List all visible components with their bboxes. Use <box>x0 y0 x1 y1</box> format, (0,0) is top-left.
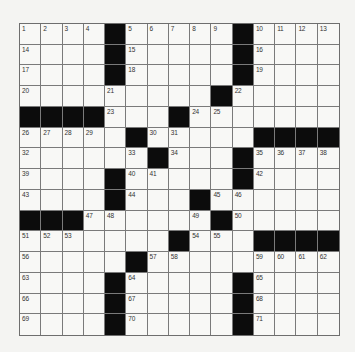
grid-cell[interactable] <box>126 86 147 107</box>
grid-cell[interactable]: 43 <box>20 190 41 211</box>
grid-cell[interactable]: 42 <box>254 169 275 190</box>
grid-cell[interactable]: 63 <box>20 273 41 294</box>
grid-cell[interactable]: 53 <box>63 231 84 252</box>
grid-cell[interactable] <box>211 252 232 273</box>
grid-cell[interactable]: 8 <box>190 24 211 45</box>
grid-cell[interactable] <box>105 231 126 252</box>
grid-cell[interactable] <box>296 65 317 86</box>
grid-cell[interactable] <box>275 273 296 294</box>
grid-cell[interactable] <box>84 190 105 211</box>
grid-cell[interactable] <box>190 86 211 107</box>
grid-cell[interactable] <box>233 252 254 273</box>
grid-cell[interactable] <box>275 190 296 211</box>
grid-cell[interactable]: 38 <box>318 148 339 169</box>
grid-cell[interactable] <box>211 65 232 86</box>
grid-cell[interactable]: 33 <box>126 148 147 169</box>
grid-cell[interactable] <box>84 273 105 294</box>
grid-cell[interactable] <box>84 65 105 86</box>
grid-cell[interactable] <box>41 148 62 169</box>
grid-cell[interactable] <box>318 45 339 66</box>
grid-cell[interactable]: 70 <box>126 314 147 335</box>
grid-cell[interactable] <box>148 294 169 315</box>
grid-cell[interactable] <box>254 190 275 211</box>
grid-cell[interactable] <box>148 45 169 66</box>
grid-cell[interactable]: 36 <box>275 148 296 169</box>
grid-cell[interactable]: 66 <box>20 294 41 315</box>
grid-cell[interactable]: 48 <box>105 211 126 232</box>
grid-cell[interactable] <box>296 45 317 66</box>
grid-cell[interactable]: 46 <box>233 190 254 211</box>
grid-cell[interactable] <box>148 314 169 335</box>
grid-cell[interactable] <box>63 190 84 211</box>
grid-cell[interactable]: 34 <box>169 148 190 169</box>
grid-cell[interactable] <box>211 294 232 315</box>
grid-cell[interactable]: 56 <box>20 252 41 273</box>
grid-cell[interactable]: 55 <box>211 231 232 252</box>
grid-cell[interactable] <box>63 169 84 190</box>
grid-cell[interactable] <box>105 128 126 149</box>
grid-cell[interactable]: 31 <box>169 128 190 149</box>
grid-cell[interactable] <box>318 273 339 294</box>
grid-cell[interactable] <box>63 294 84 315</box>
grid-cell[interactable]: 15 <box>126 45 147 66</box>
grid-cell[interactable] <box>126 211 147 232</box>
grid-cell[interactable] <box>233 128 254 149</box>
grid-cell[interactable] <box>169 65 190 86</box>
grid-cell[interactable] <box>41 294 62 315</box>
grid-cell[interactable]: 51 <box>20 231 41 252</box>
grid-cell[interactable]: 3 <box>63 24 84 45</box>
grid-cell[interactable] <box>190 314 211 335</box>
grid-cell[interactable]: 1 <box>20 24 41 45</box>
grid-cell[interactable] <box>296 107 317 128</box>
grid-cell[interactable]: 45 <box>211 190 232 211</box>
grid-cell[interactable] <box>275 294 296 315</box>
grid-cell[interactable] <box>63 252 84 273</box>
grid-cell[interactable]: 19 <box>254 65 275 86</box>
grid-cell[interactable] <box>63 45 84 66</box>
grid-cell[interactable] <box>63 86 84 107</box>
grid-cell[interactable] <box>41 65 62 86</box>
grid-cell[interactable] <box>190 273 211 294</box>
grid-cell[interactable] <box>84 45 105 66</box>
grid-cell[interactable] <box>296 169 317 190</box>
grid-cell[interactable]: 29 <box>84 128 105 149</box>
grid-cell[interactable] <box>148 107 169 128</box>
grid-cell[interactable]: 59 <box>254 252 275 273</box>
grid-cell[interactable]: 12 <box>296 24 317 45</box>
grid-cell[interactable] <box>211 169 232 190</box>
grid-cell[interactable] <box>211 128 232 149</box>
grid-cell[interactable] <box>254 211 275 232</box>
grid-cell[interactable] <box>296 211 317 232</box>
grid-cell[interactable] <box>169 211 190 232</box>
grid-cell[interactable]: 40 <box>126 169 147 190</box>
grid-cell[interactable] <box>41 169 62 190</box>
grid-cell[interactable] <box>169 314 190 335</box>
grid-cell[interactable] <box>190 294 211 315</box>
grid-cell[interactable] <box>169 169 190 190</box>
grid-cell[interactable] <box>211 273 232 294</box>
grid-cell[interactable] <box>84 314 105 335</box>
grid-cell[interactable]: 23 <box>105 107 126 128</box>
grid-cell[interactable]: 50 <box>233 211 254 232</box>
grid-cell[interactable]: 9 <box>211 24 232 45</box>
grid-cell[interactable] <box>105 252 126 273</box>
grid-cell[interactable]: 25 <box>211 107 232 128</box>
grid-cell[interactable]: 60 <box>275 252 296 273</box>
grid-cell[interactable] <box>84 169 105 190</box>
grid-cell[interactable] <box>169 45 190 66</box>
grid-cell[interactable]: 13 <box>318 24 339 45</box>
grid-cell[interactable] <box>318 65 339 86</box>
grid-cell[interactable] <box>211 148 232 169</box>
grid-cell[interactable] <box>84 148 105 169</box>
grid-cell[interactable]: 22 <box>233 86 254 107</box>
grid-cell[interactable]: 44 <box>126 190 147 211</box>
grid-cell[interactable] <box>254 86 275 107</box>
grid-cell[interactable] <box>63 65 84 86</box>
grid-cell[interactable] <box>275 45 296 66</box>
grid-cell[interactable] <box>275 211 296 232</box>
grid-cell[interactable] <box>190 65 211 86</box>
grid-cell[interactable]: 4 <box>84 24 105 45</box>
grid-cell[interactable]: 71 <box>254 314 275 335</box>
grid-cell[interactable]: 47 <box>84 211 105 232</box>
grid-cell[interactable] <box>190 45 211 66</box>
